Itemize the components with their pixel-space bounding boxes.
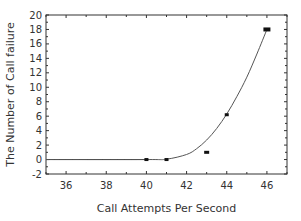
data-point (225, 113, 229, 116)
tick-labels: 363840424446-202468101214161820 (29, 10, 273, 192)
y-tick-label: 16 (29, 38, 42, 49)
x-tick-label: 46 (261, 180, 274, 191)
x-axis-label: Call Attempts Per Second (97, 202, 237, 215)
y-tick-label: 6 (36, 111, 42, 122)
data-point (263, 27, 270, 31)
y-tick-label: 18 (29, 24, 42, 35)
data-point (144, 158, 148, 161)
y-tick-label: 14 (29, 53, 42, 64)
chart: 363840424446-202468101214161820 Call Att… (0, 0, 301, 221)
ticks (46, 15, 287, 174)
plot-frame (46, 15, 287, 174)
y-tick-label: 10 (29, 82, 42, 93)
y-tick-label: 8 (36, 96, 42, 107)
x-tick-label: 38 (100, 180, 113, 191)
x-tick-label: 36 (60, 180, 73, 191)
y-tick-label: 20 (29, 10, 42, 21)
x-tick-label: 42 (180, 180, 193, 191)
x-tick-label: 40 (140, 180, 153, 191)
y-tick-label: 4 (36, 125, 42, 136)
y-axis-label: The Number of Call failure (4, 22, 17, 168)
data-point (204, 151, 209, 154)
data-markers (144, 27, 270, 161)
fit-curve (46, 29, 267, 159)
y-tick-label: 0 (36, 154, 42, 165)
y-tick-label: -2 (32, 169, 42, 180)
y-tick-label: 12 (29, 67, 42, 78)
x-tick-label: 44 (220, 180, 233, 191)
y-tick-label: 2 (36, 140, 42, 151)
data-point (165, 158, 169, 161)
